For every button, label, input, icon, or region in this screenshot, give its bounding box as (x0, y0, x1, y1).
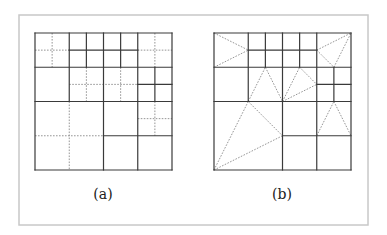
figure: (a) (b) (0, 0, 387, 235)
panel-b-label: (b) (272, 186, 292, 202)
dashed-line (317, 50, 334, 67)
dashed-line (317, 102, 334, 136)
panel-a-solid-cells (35, 33, 172, 170)
dashed-line (283, 67, 300, 101)
dashed-line (214, 136, 283, 170)
dashed-line (300, 67, 317, 84)
dashed-line (265, 67, 282, 101)
dashed-line (214, 33, 248, 50)
figure-frame (19, 15, 368, 225)
dashed-line (334, 33, 351, 67)
dashed-line (214, 102, 248, 171)
panel-b-solid-cells (214, 33, 351, 170)
panel-a-label: (a) (93, 186, 112, 202)
dashed-line (283, 84, 317, 101)
dashed-line (248, 67, 265, 101)
dashed-line (214, 50, 248, 67)
dashed-line (248, 102, 282, 136)
dashed-line (334, 102, 351, 136)
panel-a-quadtree-grid: (a) (35, 33, 172, 202)
panel-b-triangulated-grid: (b) (214, 33, 351, 202)
dashed-line (317, 33, 351, 50)
